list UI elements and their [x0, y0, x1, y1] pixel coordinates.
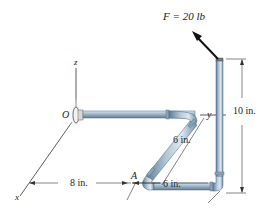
x-axis-label: x	[15, 193, 19, 202]
force-arrow	[196, 36, 218, 59]
x-axis-line	[20, 122, 72, 196]
force-label: F = 20 lb	[163, 11, 205, 22]
y-axis-label: y	[207, 110, 211, 120]
dim-8in-label: 8 in.	[70, 178, 88, 188]
flange-collar	[78, 110, 83, 120]
z-axis-label: z	[74, 58, 78, 67]
origin-label: O	[62, 110, 69, 120]
dim-6in-horizontal-label: 6 in.	[163, 179, 181, 189]
point-a-label: A	[131, 171, 137, 181]
dim-10in-label: 10 in.	[233, 106, 256, 116]
dim-6in-diagonal-label: 6 in.	[173, 135, 191, 145]
pipe-segment-diagonal	[146, 121, 197, 180]
pipe-segment-vertical	[216, 60, 223, 176]
pipe-assembly-diagram: F = 20 lb O z x y A 8 in. 6 in. 6 in. 10…	[0, 0, 268, 208]
elbow-bottom-right	[213, 176, 223, 191]
